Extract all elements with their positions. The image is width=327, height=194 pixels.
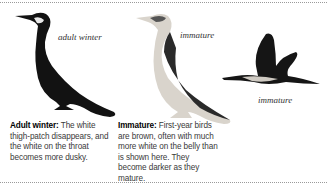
bottom-dotted-rule [0, 182, 327, 183]
adult-winter-cormorant-illustration [10, 8, 120, 118]
caption-heading: Immature: [118, 121, 157, 130]
label-immature-flying: immature [258, 95, 292, 105]
caption-adult-winter: Adult winter: The white thigh-patch disa… [10, 121, 110, 163]
label-adult-winter: adult winter [58, 32, 102, 42]
caption-heading: Adult winter: [10, 121, 59, 130]
top-dotted-rule [0, 2, 327, 3]
immature-flying-cormorant-illustration [220, 30, 325, 85]
label-immature-standing: immature [180, 30, 214, 40]
caption-immature: Immature: First-year birds are brown, of… [118, 121, 218, 185]
caption-text: First-year birds are brown, often with m… [118, 121, 218, 183]
